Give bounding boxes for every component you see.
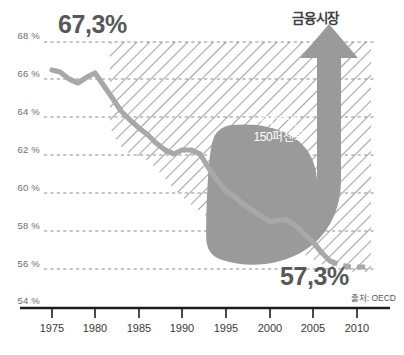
- x-tick-1980: 1980: [70, 322, 120, 334]
- arrow-title-label: 금융시장: [292, 7, 339, 27]
- chart-container: 68 % 66 % 64 % 62 % 60 % 58 % 56 % 54 % …: [0, 0, 404, 355]
- y-tick-68: 68 %: [2, 30, 40, 41]
- y-tick-54: 54 %: [2, 295, 40, 306]
- y-tick-56: 56 %: [2, 258, 40, 269]
- y-tick-64: 64 %: [2, 106, 40, 117]
- y-tick-66: 66 %: [2, 68, 40, 79]
- start-value-label: 67,3%: [58, 10, 127, 39]
- y-tick-58: 58 %: [2, 220, 40, 231]
- end-value-label: 57,3%: [280, 262, 349, 291]
- x-tick-2010: 2010: [332, 322, 382, 334]
- source-note: 출처: OECD: [318, 291, 396, 303]
- x-tick-1990: 1990: [157, 322, 207, 334]
- y-tick-60: 60 %: [2, 182, 40, 193]
- x-tick-2005: 2005: [288, 322, 338, 334]
- y-tick-62: 62 %: [2, 144, 40, 155]
- x-axis: [20, 308, 390, 318]
- x-tick-1995: 1995: [201, 322, 251, 334]
